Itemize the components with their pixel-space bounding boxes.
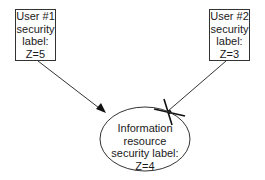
edge-user2-to-resource	[168, 61, 226, 111]
arrowhead-icon	[96, 103, 106, 113]
user2-line-1: User #2	[210, 10, 249, 23]
resource-line-2: resource	[100, 135, 190, 148]
resource-line-3: security label:	[100, 147, 190, 160]
user2-box: User #2 security label: Z=3	[209, 9, 250, 61]
user2-line-4: Z=3	[220, 48, 239, 61]
user1-line-4: Z=5	[26, 48, 45, 61]
resource-label: Information resource security label: Z=4	[100, 122, 190, 172]
resource-line-1: Information	[100, 122, 190, 135]
resource-line-4: Z=4	[100, 160, 190, 173]
user1-box: User #1 security label: Z=5	[15, 9, 56, 61]
user1-line-1: User #1	[16, 10, 55, 23]
user2-line-2: security	[211, 23, 249, 36]
user1-line-2: security	[17, 23, 55, 36]
edge-user1-to-resource	[38, 61, 103, 111]
user2-line-3: label:	[216, 35, 242, 48]
user1-line-3: label:	[22, 35, 48, 48]
